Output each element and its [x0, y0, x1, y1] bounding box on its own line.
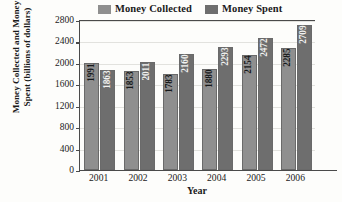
gridline — [80, 150, 315, 151]
bar-value-label: 2285 — [284, 48, 293, 66]
y-axis-tick-mark — [76, 107, 80, 108]
bar-value-label: 2709 — [300, 25, 309, 43]
y-axis-tick-label: 1200 — [55, 102, 74, 112]
plot-area: 0400800120016002000240028001991186318532… — [79, 20, 315, 170]
bar-value-label: 1783 — [166, 75, 175, 93]
bar-money-spent-2006: 2709 — [297, 25, 312, 170]
legend-label-money-collected: Money Collected — [115, 4, 192, 15]
bar-money-spent-2004: 2293 — [218, 47, 233, 170]
gridline — [80, 42, 315, 43]
bar-chart-figure: Money Collected Money Spent Money Collec… — [0, 0, 342, 202]
bar-money-spent-2003: 2160 — [179, 54, 194, 170]
bar-money-spent-2002: 2011 — [140, 62, 155, 170]
bar-value-label: 2154 — [244, 55, 253, 73]
bar-value-label: 1880 — [205, 70, 214, 88]
bar-value-label: 2160 — [182, 55, 191, 73]
bar-money-collected-2005: 2154 — [242, 55, 257, 170]
bar-group-2002: 18532011 — [124, 21, 155, 170]
bar-group-2005: 21542472 — [242, 21, 273, 170]
x-axis-tick-label-2006: 2006 — [286, 173, 305, 183]
bar-group-2004: 18802293 — [202, 21, 233, 170]
bar-value-label: 2011 — [142, 63, 151, 81]
x-axis-tick-label-2002: 2002 — [128, 173, 147, 183]
y-axis-tick-mark — [76, 150, 80, 151]
y-axis-tick-mark — [76, 21, 80, 22]
bar-value-label: 1853 — [126, 71, 135, 89]
legend-swatch-money-collected — [98, 5, 111, 14]
bar-value-label: 2472 — [260, 38, 269, 56]
y-axis-tick-mark — [76, 85, 80, 86]
gridline — [80, 64, 315, 65]
y-axis-title-line-2: Spent (billions of dollars) — [22, 0, 33, 133]
y-axis-tick-mark — [76, 42, 80, 43]
bar-group-2003: 17832160 — [163, 21, 194, 170]
y-axis-tick-label: 2800 — [55, 16, 74, 26]
bar-money-spent-2001: 1863 — [100, 70, 115, 170]
gridline — [80, 85, 315, 86]
chart-legend: Money Collected Money Spent — [98, 1, 298, 17]
y-axis-tick-label: 1600 — [55, 81, 74, 91]
legend-label-money-spent: Money Spent — [222, 4, 282, 15]
legend-entry-money-collected: Money Collected — [98, 4, 192, 15]
bar-money-spent-2005: 2472 — [258, 38, 273, 170]
gridline — [80, 21, 315, 22]
bar-money-collected-2006: 2285 — [281, 48, 296, 170]
bar-money-collected-2003: 1783 — [163, 74, 178, 170]
y-axis-title-line-1: Money Collected and Money — [11, 0, 22, 133]
x-axis-title: Year — [79, 186, 315, 196]
bar-group-2001: 19911863 — [84, 21, 115, 170]
legend-entry-money-spent: Money Spent — [205, 4, 282, 15]
x-axis-tick-label-2001: 2001 — [89, 173, 108, 183]
bar-group-2006: 22852709 — [281, 21, 312, 170]
gridline — [80, 128, 315, 129]
y-axis-tick-label: 800 — [60, 123, 74, 133]
y-axis-tick-mark — [76, 64, 80, 65]
y-axis-tick-label: 2400 — [55, 38, 74, 48]
y-axis-tick-mark — [76, 128, 80, 129]
bar-value-label: 1863 — [103, 71, 112, 89]
bar-money-collected-2004: 1880 — [202, 69, 217, 170]
x-axis-tick-label-2003: 2003 — [168, 173, 187, 183]
bar-value-label: 1991 — [87, 64, 96, 82]
y-axis-tick-label: 0 — [69, 166, 74, 176]
bar-money-collected-2001: 1991 — [84, 63, 99, 170]
legend-swatch-money-spent — [205, 5, 218, 14]
x-axis-line — [79, 170, 337, 171]
y-axis-tick-label: 400 — [60, 145, 74, 155]
x-axis-tick-label-2004: 2004 — [207, 173, 226, 183]
x-axis-tick-label-2005: 2005 — [246, 173, 265, 183]
bar-value-label: 2293 — [221, 48, 230, 66]
y-axis-tick-label: 2000 — [55, 59, 74, 69]
gridline — [80, 107, 315, 108]
y-axis-title: Money Collected and Money Spent (billion… — [11, 0, 33, 133]
bar-money-collected-2002: 1853 — [124, 71, 139, 170]
